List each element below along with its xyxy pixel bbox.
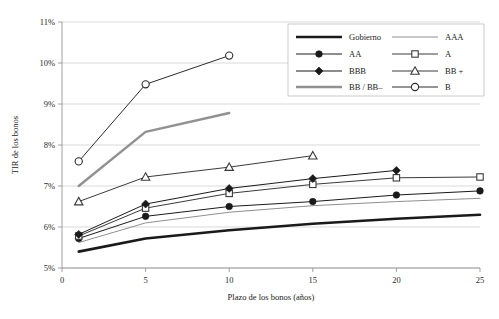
- legend-label: BB / BB–: [349, 82, 383, 92]
- series-aa: [75, 188, 483, 242]
- series-line: [79, 56, 229, 162]
- y-axis-tick-label: 8%: [44, 140, 55, 150]
- legend-label: Gobierno: [349, 32, 381, 42]
- legend-label: BBB: [349, 66, 366, 76]
- y-axis-title: TIR de los bonos: [10, 116, 20, 174]
- y-axis: 5%6%7%8%9%10%11%: [39, 17, 62, 273]
- data-point-marker: [75, 158, 82, 165]
- series-bbb: [75, 166, 401, 238]
- yield-curve-chart: 5%6%7%8%9%10%11%0510152025Plazo de los b…: [0, 0, 499, 319]
- series-line: [79, 215, 480, 252]
- legend-label: A: [445, 49, 452, 59]
- series-aaa: [79, 198, 480, 242]
- legend-label: BB +: [445, 66, 463, 76]
- series-line: [79, 170, 397, 234]
- data-point-marker: [392, 166, 400, 174]
- data-point-marker: [142, 81, 149, 88]
- data-point-marker: [226, 52, 233, 59]
- chart-container: 5%6%7%8%9%10%11%0510152025Plazo de los b…: [0, 0, 499, 319]
- data-point-marker: [226, 203, 233, 210]
- data-point-marker: [316, 51, 323, 58]
- x-axis-tick-label: 15: [309, 275, 318, 285]
- data-point-marker: [477, 188, 484, 195]
- x-axis-tick-label: 25: [476, 275, 485, 285]
- legend: GobiernoAAAAAABBBBB +BB / BB–B: [288, 24, 484, 96]
- y-axis-tick-label: 5%: [44, 263, 55, 273]
- data-point-marker: [75, 197, 83, 204]
- series-bb-bb: [79, 113, 229, 186]
- data-point-marker: [310, 198, 317, 205]
- series-b: [75, 52, 233, 165]
- data-point-marker: [412, 51, 418, 57]
- y-axis-tick-label: 9%: [44, 99, 55, 109]
- legend-label: AAA: [445, 32, 464, 42]
- series-line: [79, 113, 229, 186]
- series-a: [76, 174, 484, 239]
- y-axis-tick-label: 10%: [39, 58, 55, 68]
- x-axis-tick-label: 0: [60, 275, 64, 285]
- data-point-marker: [393, 192, 400, 199]
- x-axis-tick-label: 10: [225, 275, 234, 285]
- data-point-marker: [393, 175, 399, 181]
- x-axis: 0510152025: [60, 268, 484, 285]
- data-point-marker: [477, 174, 483, 180]
- x-axis-tick-label: 20: [392, 275, 401, 285]
- series-line: [79, 191, 480, 239]
- y-axis-tick-label: 11%: [40, 17, 55, 27]
- data-point-marker: [411, 83, 418, 90]
- legend-label: B: [445, 82, 451, 92]
- x-axis-title: Plazo de los bonos (años): [228, 292, 315, 302]
- data-point-marker: [142, 213, 149, 220]
- y-axis-tick-label: 7%: [44, 181, 55, 191]
- x-axis-tick-label: 5: [143, 275, 147, 285]
- series-line: [79, 198, 480, 242]
- data-point-marker: [309, 151, 317, 158]
- y-axis-tick-label: 6%: [44, 222, 55, 232]
- legend-label: AA: [349, 49, 362, 59]
- series-gobierno: [79, 215, 480, 252]
